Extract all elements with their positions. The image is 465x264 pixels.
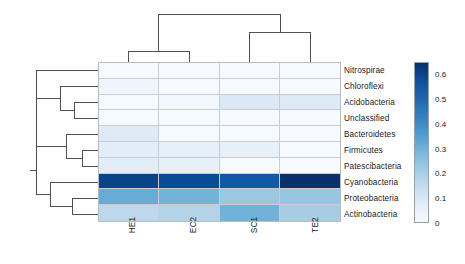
heatmap-cell — [99, 158, 159, 174]
heatmap-cell — [99, 79, 159, 95]
column-label-ec2: EC2 — [189, 217, 198, 234]
column-label-slot: TE2 — [280, 223, 341, 263]
clustered-heatmap-figure: NitrospiraeChloroflexiAcidobacteriaUncla… — [0, 0, 465, 264]
heatmap-cell — [159, 63, 219, 79]
heatmap-cell — [280, 158, 340, 174]
heatmap-cell — [220, 110, 280, 126]
colorbar-tick-label: 0.4 — [435, 119, 446, 128]
heatmap-cell — [99, 63, 159, 79]
heatmap-grid — [98, 62, 341, 222]
colorbar: 0.60.50.40.30.20.10 — [414, 62, 464, 230]
colorbar-tick-label: 0.6 — [435, 70, 446, 79]
row-dendro-link-firm-pates — [82, 150, 98, 166]
heatmap-cell — [99, 174, 159, 190]
heatmap-cell — [99, 126, 159, 142]
heatmap-cell — [280, 126, 340, 142]
column-label-slot: EC2 — [159, 223, 220, 263]
heatmap-cell — [220, 174, 280, 190]
heatmap-cell — [99, 189, 159, 205]
heatmap-cell — [220, 126, 280, 142]
heatmap-cell — [159, 158, 219, 174]
heatmap-cell — [280, 205, 340, 221]
heatmap-cell — [159, 174, 219, 190]
heatmap-cell — [220, 158, 280, 174]
heatmap-cell — [280, 142, 340, 158]
heatmap-cell — [280, 110, 340, 126]
row-dendro-link-chloro-group — [60, 86, 98, 110]
row-dendrogram — [16, 62, 98, 222]
column-label-sc1: SC1 — [250, 217, 259, 234]
colorbar-tick-label: 0 — [435, 219, 439, 228]
heatmap-cell — [220, 79, 280, 95]
colorbar-tick-label: 0.5 — [435, 95, 446, 104]
colorbar-tick-label: 0.2 — [435, 169, 446, 178]
heatmap-cell — [280, 174, 340, 190]
heatmap-cell — [280, 189, 340, 205]
colorbar-tick-label: 0.3 — [435, 144, 446, 153]
colorbar-gradient — [414, 62, 429, 223]
column-label-te2: TE2 — [311, 217, 320, 233]
column-label-slot: SC1 — [220, 223, 281, 263]
heatmap-cell — [220, 95, 280, 111]
heatmap-cell — [280, 95, 340, 111]
row-dendro-link-cyano-group — [50, 182, 98, 206]
heatmap-cell — [280, 79, 340, 95]
heatmap-cell — [159, 189, 219, 205]
heatmap-cell — [159, 79, 219, 95]
column-label-slot: HE1 — [98, 223, 159, 263]
heatmap-cell — [220, 142, 280, 158]
heatmap-cell — [99, 142, 159, 158]
row-dendro-link-proteo-actino — [72, 198, 98, 214]
row-dendro-link-mid-merge — [36, 146, 66, 194]
heatmap-cell — [159, 142, 219, 158]
heatmap-cell — [280, 63, 340, 79]
heatmap-cell — [220, 189, 280, 205]
col-dendro-link-he1-ec2 — [128, 51, 189, 62]
heatmap-cell — [159, 95, 219, 111]
colorbar-tick-label: 0.1 — [435, 194, 446, 203]
heatmap-cell — [159, 110, 219, 126]
col-dendro-link-sc1-te2 — [250, 32, 311, 62]
column-label-row: HE1EC2SC1TE2 — [98, 223, 341, 263]
heatmap-cell — [159, 126, 219, 142]
row-dendro-link-nitro-group — [36, 70, 98, 98]
column-dendrogram — [98, 6, 341, 62]
heatmap-cell — [220, 63, 280, 79]
heatmap-cell — [99, 95, 159, 111]
row-dendro-link-acido-unclass — [74, 102, 98, 118]
heatmap-cell — [99, 110, 159, 126]
column-label-he1: HE1 — [128, 217, 137, 234]
